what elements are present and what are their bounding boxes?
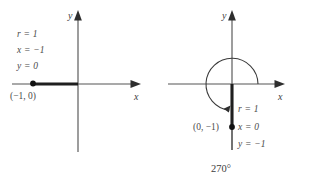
- left-y-axis-arrowhead: [74, 10, 82, 21]
- right-point-marker: [229, 124, 235, 130]
- right-arc-arrowhead: [224, 106, 231, 113]
- right-y-axis-label: y: [221, 10, 227, 21]
- left-point-label: (−1, 0): [10, 91, 36, 102]
- right-equation-r: r = 1: [238, 104, 259, 114]
- left-equation-y: y = 0: [16, 61, 38, 71]
- trigonometry-quadrantal-angles-figure: y x r = 1 x = −1 y = 0 (−1, 0): [0, 0, 309, 182]
- left-point-marker: [30, 81, 36, 87]
- left-equation-x: x = −1: [16, 45, 45, 55]
- right-x-axis-arrowhead: [275, 80, 286, 88]
- left-x-axis-label: x: [133, 91, 139, 102]
- right-y-axis-arrowhead: [228, 10, 236, 21]
- right-diagram-group: y x r = 1 x = 0 y = −1 (0, −1): [168, 10, 285, 174]
- left-x-axis-arrowhead: [131, 80, 142, 88]
- right-equation-x: x = 0: [237, 122, 259, 132]
- right-equation-y: y = −1: [237, 139, 266, 149]
- right-angle-measure-label: 270°: [211, 163, 231, 174]
- left-equation-r: r = 1: [17, 29, 38, 39]
- right-x-axis-label: x: [277, 91, 283, 102]
- left-diagram-group: y x r = 1 x = −1 y = 0 (−1, 0): [10, 10, 141, 152]
- right-point-label: (0, −1): [193, 122, 219, 133]
- left-y-axis-label: y: [67, 10, 73, 21]
